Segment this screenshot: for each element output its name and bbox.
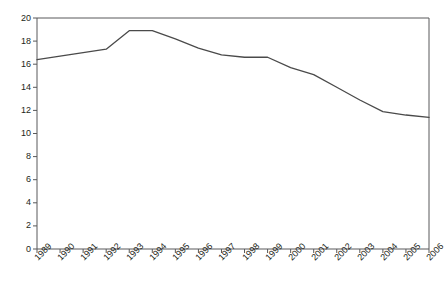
line-chart: 02468101214161820 1989199019911992199319… [0,0,447,292]
data-line-series-1 [37,31,429,118]
y-axis-tick-label: 2 [9,221,31,230]
y-axis-tick-label: 8 [9,152,31,161]
y-axis-tick-label: 14 [9,83,31,92]
y-axis-tick-label: 16 [9,60,31,69]
axes-group [37,18,429,249]
y-axis-tick-label: 0 [9,245,31,254]
y-axis-tick-label: 4 [9,198,31,207]
y-axis-tick-label: 6 [9,175,31,184]
y-axis-tick-label: 20 [9,14,31,23]
y-axis-tick-label: 10 [9,129,31,138]
y-axis-tick-label: 12 [9,106,31,115]
y-axis-tick-label: 18 [9,37,31,46]
data-series-group [37,31,429,118]
axis-ticks-group [33,18,429,253]
